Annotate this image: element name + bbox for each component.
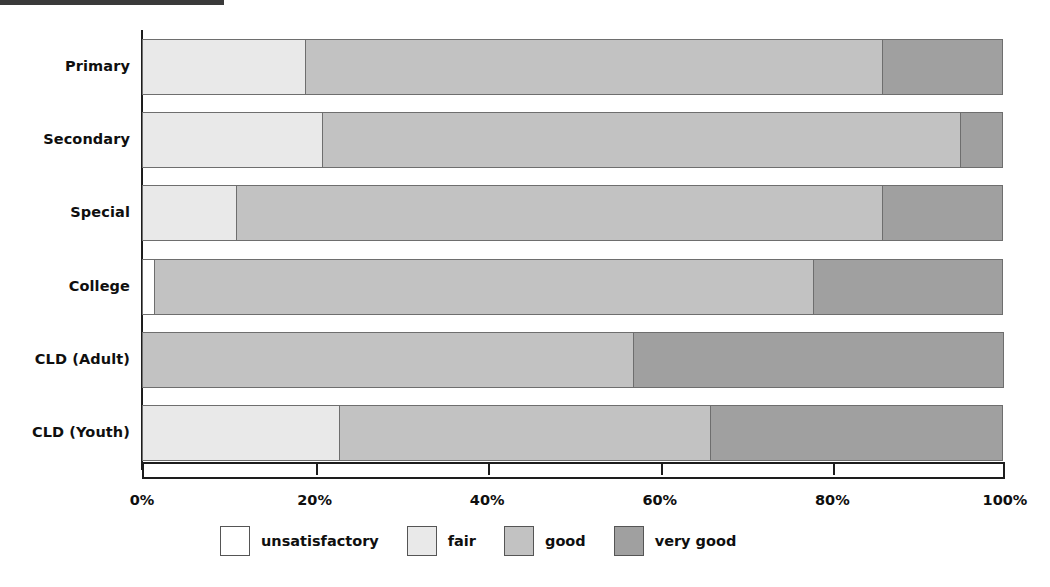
y-axis-category-labels: PrimarySecondarySpecialCollegeCLD (Adult…: [0, 30, 130, 470]
bar-row: [142, 332, 1005, 388]
x-axis-tick-labels: 0%20%40%60%80%100%: [0, 492, 1050, 514]
bar-segment: [882, 185, 1003, 241]
stacked-bar-chart: PrimarySecondarySpecialCollegeCLD (Adult…: [0, 0, 1050, 587]
x-axis-rail: [142, 462, 1005, 479]
bar-segment: [142, 185, 237, 241]
x-tick-label: 20%: [297, 492, 332, 508]
bar-segment: [813, 259, 1003, 315]
legend-label: unsatisfactory: [261, 533, 379, 549]
legend-item[interactable]: unsatisfactory: [220, 526, 379, 556]
legend-item[interactable]: fair: [407, 526, 476, 556]
y-axis-spine: [141, 30, 143, 470]
bar-segment: [322, 112, 961, 168]
x-tick-label: 60%: [642, 492, 677, 508]
bar-segment: [960, 112, 1003, 168]
x-axis-tick: [833, 462, 835, 475]
bar-segment: [305, 39, 883, 95]
legend-swatch: [614, 526, 644, 556]
plot-area: [142, 30, 1005, 470]
bar-segment: [633, 332, 1004, 388]
bar-segment: [142, 332, 634, 388]
bar-segment: [142, 39, 306, 95]
bar-segment: [882, 39, 1003, 95]
bar-segment: [236, 185, 883, 241]
legend-item[interactable]: good: [504, 526, 586, 556]
bar-row: [142, 112, 1005, 168]
category-label: College: [0, 278, 130, 294]
category-label: CLD (Adult): [0, 351, 130, 367]
legend-label: very good: [655, 533, 737, 549]
chart-legend: unsatisfactoryfairgoodvery good: [220, 526, 764, 556]
x-tick-label: 0%: [130, 492, 155, 508]
bar-row: [142, 259, 1005, 315]
legend-label: good: [545, 533, 586, 549]
category-label: Special: [0, 204, 130, 220]
legend-label: fair: [448, 533, 476, 549]
bar-segment: [142, 112, 323, 168]
legend-swatch: [504, 526, 534, 556]
x-tick-label: 40%: [470, 492, 505, 508]
bar-row: [142, 185, 1005, 241]
bar-segment: [154, 259, 814, 315]
bar-segment: [339, 405, 710, 461]
category-label: CLD (Youth): [0, 424, 130, 440]
category-label: Primary: [0, 58, 130, 74]
bar-segment: [142, 405, 340, 461]
bar-row: [142, 39, 1005, 95]
legend-swatch: [220, 526, 250, 556]
x-tick-label: 80%: [815, 492, 850, 508]
x-tick-label: 100%: [983, 492, 1028, 508]
legend-item[interactable]: very good: [614, 526, 737, 556]
category-label: Secondary: [0, 131, 130, 147]
x-axis-tick: [661, 462, 663, 475]
bar-row: [142, 405, 1005, 461]
bar-segment: [710, 405, 1003, 461]
x-axis-tick: [488, 462, 490, 475]
legend-swatch: [407, 526, 437, 556]
x-axis-tick: [316, 462, 318, 475]
